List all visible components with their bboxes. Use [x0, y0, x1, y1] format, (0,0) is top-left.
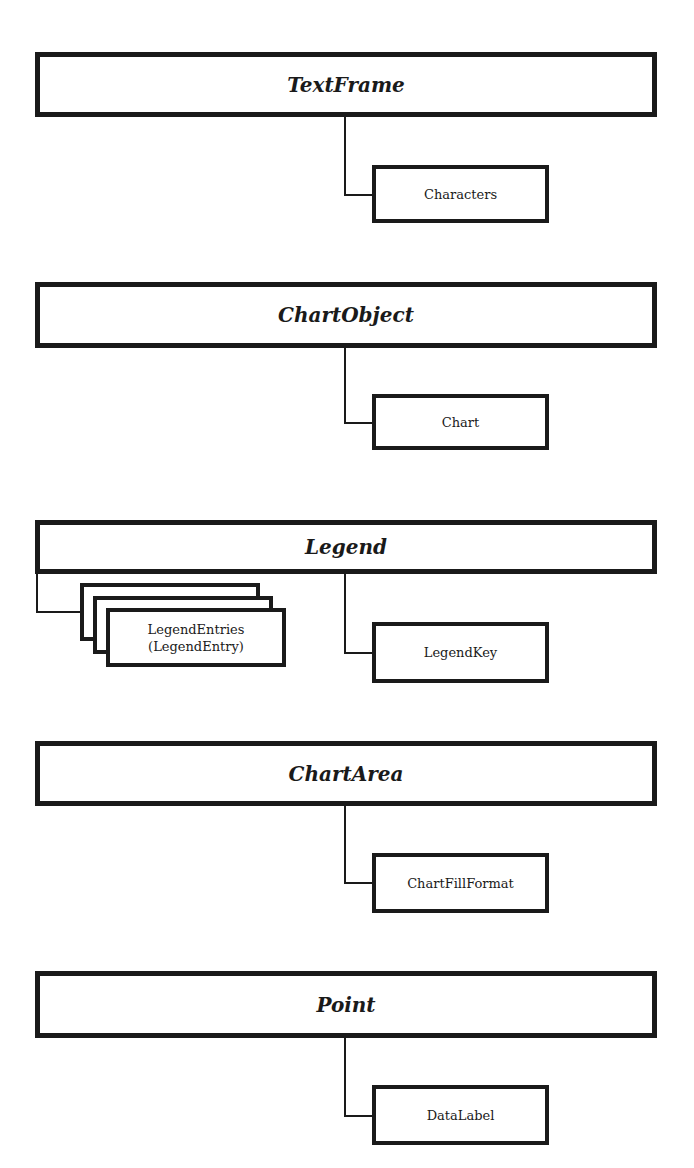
connector-vertical: [344, 806, 346, 884]
datalabel-object-box: DataLabel: [372, 1085, 549, 1145]
connector-vertical: [344, 1038, 346, 1117]
connector-vertical: [344, 117, 346, 196]
connector-horizontal: [344, 1115, 373, 1117]
chartobject-label: ChartObject: [278, 303, 414, 327]
connector-vertical: [344, 574, 346, 654]
chartarea-object-box: ChartArea: [35, 741, 657, 806]
connector-horizontal: [344, 422, 373, 424]
chartfillformat-object-box: ChartFillFormat: [372, 853, 549, 913]
connector-horizontal: [344, 882, 373, 884]
legendentry-label: (LegendEntry): [148, 638, 244, 655]
chartobject-object-box: ChartObject: [35, 282, 657, 348]
legend-label: Legend: [305, 535, 387, 559]
chartarea-label: ChartArea: [289, 762, 404, 786]
connector-vertical-collection: [36, 574, 38, 613]
legendkey-label: LegendKey: [424, 644, 497, 661]
datalabel-label: DataLabel: [427, 1107, 495, 1124]
characters-object-box: Characters: [372, 165, 549, 223]
legendentries-label: LegendEntries: [148, 621, 245, 638]
point-object-box: Point: [35, 971, 657, 1038]
connector-horizontal-collection: [36, 611, 82, 613]
legend-object-box: Legend: [35, 520, 657, 574]
characters-label: Characters: [424, 186, 497, 203]
legendentries-collection-box: LegendEntries (LegendEntry): [106, 608, 286, 667]
connector-horizontal: [344, 652, 373, 654]
legendkey-object-box: LegendKey: [372, 622, 549, 683]
chartfillformat-label: ChartFillFormat: [407, 875, 514, 892]
point-label: Point: [316, 993, 375, 1017]
chart-object-box: Chart: [372, 394, 549, 450]
textframe-object-box: TextFrame: [35, 52, 657, 117]
textframe-label: TextFrame: [287, 73, 405, 97]
chart-label: Chart: [442, 414, 480, 431]
connector-vertical: [344, 348, 346, 424]
connector-horizontal: [344, 194, 373, 196]
